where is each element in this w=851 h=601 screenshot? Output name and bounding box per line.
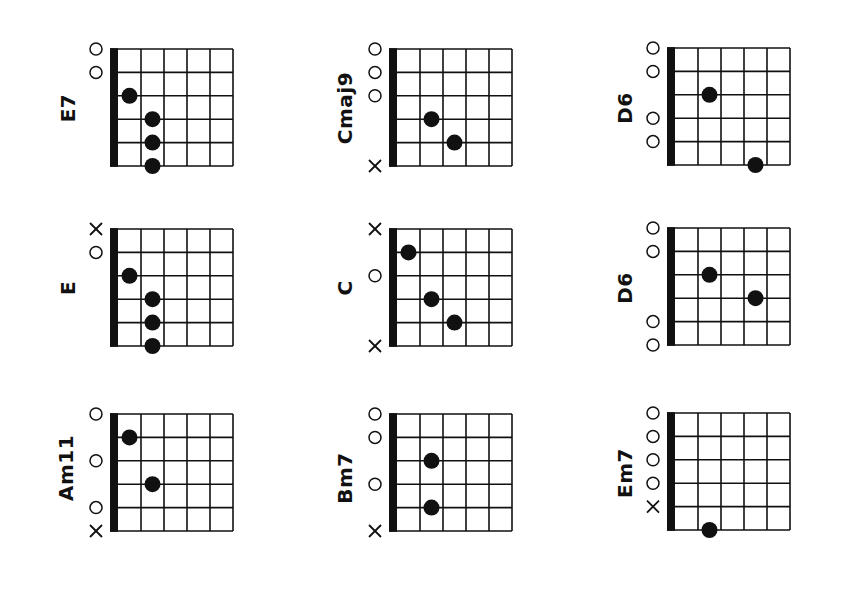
open-string-icon — [647, 430, 659, 442]
open-string-icon — [647, 477, 659, 489]
open-string-icon — [647, 454, 659, 466]
nut-bar — [667, 412, 675, 531]
chord-diagram-em7 — [0, 0, 851, 601]
muted-string-icon — [647, 501, 659, 513]
finger-dot-icon — [702, 522, 718, 538]
open-string-icon — [647, 407, 659, 419]
